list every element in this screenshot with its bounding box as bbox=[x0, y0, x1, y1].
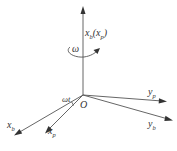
vertical-axis-arrowhead bbox=[81, 6, 86, 14]
yp-axis-label: yp bbox=[147, 86, 156, 99]
angle-label: ωt bbox=[62, 94, 71, 104]
yb-axis-arrowhead bbox=[164, 116, 173, 121]
xb-axis-arrowhead bbox=[14, 129, 22, 136]
vertical-axis bbox=[81, 6, 86, 95]
rotation-label: ω bbox=[72, 43, 79, 54]
yb-axis-label: yb bbox=[147, 118, 156, 131]
coordinate-frame-diagram: xb(xp) ω yp yb xb xp O ωt bbox=[0, 0, 177, 151]
vertical-axis-label: xb(xp) bbox=[84, 27, 108, 40]
origin-label: O bbox=[80, 99, 87, 110]
xb-axis-label: xb bbox=[6, 119, 15, 132]
yp-axis-arrowhead bbox=[159, 98, 167, 103]
xp-axis-label: xp bbox=[47, 125, 56, 138]
